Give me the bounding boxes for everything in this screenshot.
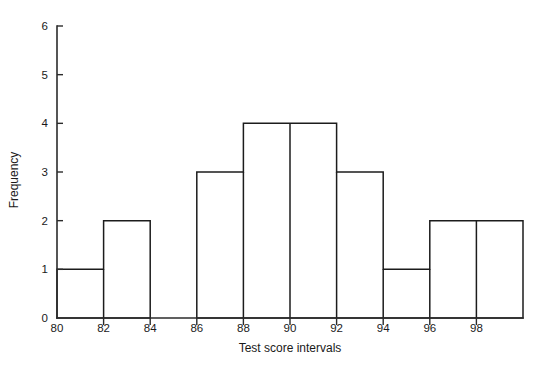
x-axis-ticks: 80828486889092949698	[51, 318, 483, 334]
x-axis-title: Test score intervals	[239, 341, 342, 355]
histogram-chart: 0123456 80828486889092949698 Frequency T…	[0, 0, 542, 371]
y-axis-ticks: 0123456	[42, 20, 63, 324]
y-axis-title: Frequency	[7, 152, 21, 209]
bars-group	[57, 123, 523, 318]
histogram-bar-run	[197, 123, 523, 318]
y-tick-label: 3	[42, 166, 48, 178]
y-tick-label: 6	[42, 20, 48, 32]
x-tick-label: 96	[423, 322, 436, 334]
y-tick-label: 5	[42, 69, 48, 81]
x-tick-label: 94	[377, 322, 390, 334]
y-tick-label: 1	[42, 263, 48, 275]
x-tick-label: 82	[97, 322, 110, 334]
y-tick-label: 0	[42, 312, 48, 324]
x-tick-label: 92	[330, 322, 343, 334]
y-tick-label: 2	[42, 215, 48, 227]
chart-canvas: 0123456 80828486889092949698 Frequency T…	[0, 0, 542, 371]
x-tick-label: 90	[284, 322, 297, 334]
x-tick-label: 98	[470, 322, 483, 334]
x-tick-label: 86	[190, 322, 203, 334]
x-tick-label: 88	[237, 322, 250, 334]
y-tick-label: 4	[42, 117, 49, 129]
x-tick-label: 80	[51, 322, 64, 334]
x-tick-label: 84	[144, 322, 157, 334]
